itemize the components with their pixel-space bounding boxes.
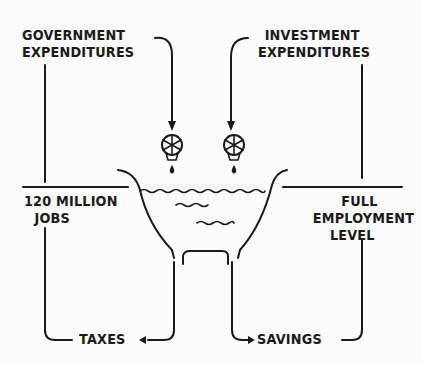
taxes-drain-pipe bbox=[139, 262, 174, 344]
investment-label-line2: Expenditures bbox=[258, 44, 370, 61]
jobs-label-line1: 120 Million bbox=[24, 193, 118, 210]
full-employment-line1: Full bbox=[328, 193, 414, 210]
government-label-line1: Government bbox=[22, 27, 134, 44]
savings-drain-pipe bbox=[232, 262, 255, 344]
government-label-line2: Expenditures bbox=[22, 44, 134, 61]
current-jobs-level-label: 120 Million Jobs bbox=[24, 193, 118, 227]
full-employment-line3: Level bbox=[328, 227, 414, 244]
government-faucet-icon bbox=[162, 135, 182, 174]
government-expenditures-label: Government Expenditures bbox=[22, 27, 134, 61]
basin-tub bbox=[118, 170, 287, 264]
investment-inflow-arrow bbox=[227, 38, 248, 131]
savings-label: Savings bbox=[257, 331, 322, 348]
jobs-label-line2: Jobs bbox=[24, 210, 118, 227]
full-employment-line2: Employment bbox=[313, 210, 414, 227]
investment-expenditures-label: Investment Expenditures bbox=[258, 27, 370, 61]
economy-bathtub-diagram: Government Expenditures Investment Expen… bbox=[0, 0, 422, 365]
taxes-label: Taxes bbox=[79, 331, 126, 348]
government-inflow-arrow bbox=[155, 38, 176, 131]
full-employment-level-label: Full Employment Level bbox=[328, 193, 414, 244]
investment-faucet-icon bbox=[224, 135, 244, 174]
investment-label-line1: Investment bbox=[258, 27, 370, 44]
water-surface bbox=[140, 190, 265, 225]
